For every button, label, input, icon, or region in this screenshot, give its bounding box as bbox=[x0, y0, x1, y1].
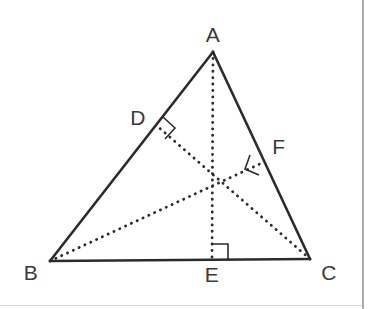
geometry-canvas bbox=[0, 0, 369, 309]
altitude-B-to-F bbox=[50, 162, 264, 261]
geometry-figure: A B C D E F bbox=[0, 0, 369, 309]
altitude-C-to-D bbox=[156, 125, 310, 259]
label-point-A: A bbox=[206, 24, 221, 45]
triangle-altitudes bbox=[50, 52, 310, 261]
label-point-B: B bbox=[24, 262, 39, 283]
right-angle-at-D bbox=[163, 117, 175, 139]
label-point-C: C bbox=[321, 262, 337, 283]
side-BC bbox=[50, 259, 310, 261]
side-AC bbox=[213, 52, 310, 259]
page-rules bbox=[0, 0, 363, 309]
right-angle-at-E bbox=[212, 244, 228, 260]
altitude-A-to-E bbox=[212, 52, 213, 260]
label-point-F: F bbox=[272, 136, 285, 157]
label-point-D: D bbox=[130, 107, 146, 128]
triangle-sides bbox=[50, 52, 310, 261]
right-angle-at-F bbox=[245, 155, 259, 175]
side-AB bbox=[50, 52, 213, 261]
label-point-E: E bbox=[205, 264, 220, 285]
